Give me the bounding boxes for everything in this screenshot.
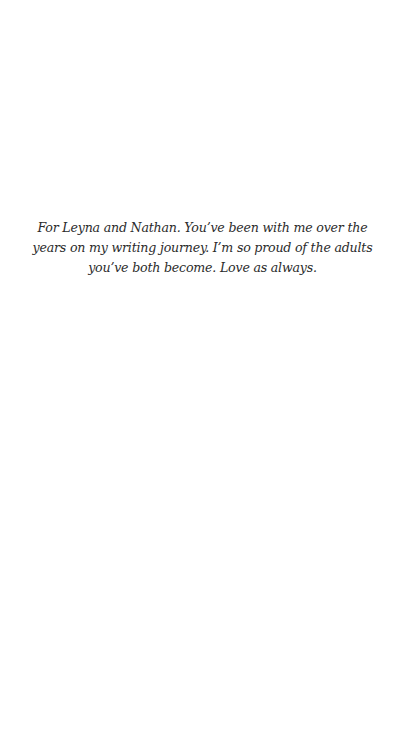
book-page: For Leyna and Nathan. You’ve been with m…: [0, 0, 405, 731]
dedication-text: For Leyna and Nathan. You’ve been with m…: [24, 218, 381, 278]
